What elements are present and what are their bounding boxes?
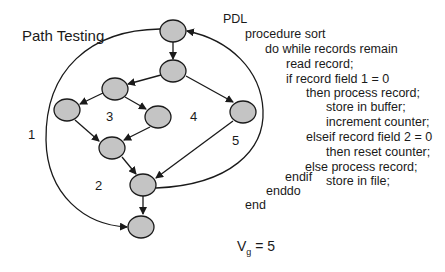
pdl-line: store in file; — [326, 174, 390, 190]
pdl-line: then reset counter; — [326, 145, 430, 161]
pdl-line: end — [245, 198, 266, 214]
edge — [124, 127, 150, 140]
pdl-line: increment counter; — [326, 115, 430, 131]
pdl-header: PDL — [223, 12, 247, 28]
region-label-5: 5 — [232, 133, 239, 148]
pdl-line: enddo — [266, 184, 301, 200]
region-label-1: 1 — [28, 127, 35, 142]
vg-symbol: V — [237, 238, 246, 254]
node — [99, 137, 125, 159]
vg-subscript: g — [246, 247, 251, 257]
node — [128, 216, 154, 238]
edge — [186, 76, 233, 102]
region-label-2: 2 — [95, 178, 102, 193]
pdl-line: do while records remain — [265, 42, 398, 58]
node — [145, 106, 171, 128]
node — [230, 101, 256, 123]
vg-value: = 5 — [255, 238, 275, 254]
pdl-line: elseif record field 2 = 0 — [306, 130, 432, 146]
edge — [75, 120, 99, 141]
edge — [122, 157, 136, 174]
edge — [125, 97, 146, 109]
diagram-title: Path Testing — [22, 27, 104, 44]
region-label-4: 4 — [190, 109, 197, 124]
edge — [156, 121, 233, 178]
node — [54, 99, 80, 121]
pdl-line: procedure sort — [245, 27, 326, 43]
node — [160, 20, 186, 42]
edge — [80, 93, 103, 104]
pdl-line: store in buffer; — [326, 100, 406, 116]
node — [102, 78, 128, 100]
edge — [128, 75, 161, 84]
region-label-3: 3 — [106, 109, 113, 124]
cyclomatic-complexity: Vg = 5 — [237, 238, 275, 257]
node — [130, 174, 156, 196]
pdl-line: read record; — [286, 57, 353, 73]
node — [160, 60, 186, 82]
